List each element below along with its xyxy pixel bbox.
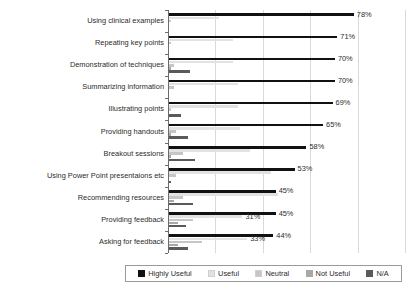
axis-tick [165, 98, 168, 99]
category-label: Recommending resources [78, 194, 164, 201]
bar [169, 193, 278, 196]
legend-swatch-icon [255, 270, 262, 277]
bar [169, 159, 195, 162]
category-label: Providing feedback [101, 216, 164, 223]
bar [169, 114, 181, 117]
legend-swatch-icon [366, 270, 373, 277]
bar [169, 17, 219, 20]
axis-tick [165, 32, 168, 33]
bar-group [168, 54, 405, 76]
data-label: 33% [250, 235, 265, 242]
legend-item[interactable]: Useful [208, 270, 239, 277]
axis-tick [165, 76, 168, 77]
chart-legend: Highly UsefulUsefulNeutralNot UsefulN/A [125, 265, 402, 282]
axis-tick [165, 187, 168, 188]
data-label: 44% [276, 232, 291, 239]
data-label: 70% [338, 77, 353, 84]
legend-swatch-icon [138, 270, 145, 277]
bar [169, 61, 233, 64]
bar-group [168, 32, 405, 54]
data-label: 45% [279, 210, 294, 217]
legend-item[interactable]: Neutral [255, 270, 289, 277]
bar [169, 42, 171, 45]
data-label: 53% [298, 165, 313, 172]
legend-label: Neutral [265, 270, 289, 277]
category-label: Summarizing information [82, 83, 164, 90]
bar [169, 105, 238, 108]
axis-tick [165, 120, 168, 121]
bar-group [168, 143, 405, 165]
data-label: 69% [336, 99, 351, 106]
bar-group [168, 120, 405, 142]
legend-item[interactable]: N/A [366, 270, 388, 277]
bar [169, 83, 238, 86]
data-label: 71% [340, 33, 355, 40]
legend-label: Useful [218, 270, 239, 277]
legend-label: Not Useful [316, 270, 351, 277]
gridline [405, 10, 406, 253]
bar [169, 174, 176, 177]
axis-tick [165, 165, 168, 166]
bar [169, 247, 188, 250]
data-label: 45% [279, 187, 294, 194]
legend-item[interactable]: Highly Useful [138, 270, 192, 277]
bar-group [168, 165, 405, 187]
bar [169, 203, 193, 206]
data-label: 65% [326, 121, 341, 128]
bar [169, 171, 271, 174]
category-label: Illustrating points [109, 105, 164, 112]
legend-item[interactable]: Not Useful [306, 270, 351, 277]
category-label: Breakout sessions [104, 150, 164, 157]
legend-swatch-icon [306, 270, 313, 277]
bar [169, 181, 171, 184]
data-label: 31% [245, 213, 260, 220]
horizontal-bar-chart: Using clinical examplesRepeating key poi… [0, 0, 417, 292]
bar [169, 108, 171, 111]
bar [169, 136, 188, 139]
bar [169, 20, 171, 23]
data-label: 70% [338, 55, 353, 62]
category-label: Providing handouts [101, 128, 164, 135]
axis-tick [165, 10, 168, 11]
axis-tick [165, 209, 168, 210]
axis-tick [165, 54, 168, 55]
bar-group [168, 98, 405, 120]
category-label: Using clinical examples [87, 17, 164, 24]
axis-tick [165, 253, 168, 254]
category-axis-line [168, 10, 169, 253]
bar [169, 127, 240, 130]
legend-label: Highly Useful [148, 270, 192, 277]
legend-swatch-icon [208, 270, 215, 277]
bar [169, 39, 233, 42]
axis-tick [165, 231, 168, 232]
category-label: Demonstration of techniques [70, 61, 164, 68]
category-label: Asking for feedback [99, 238, 164, 245]
legend-label: N/A [376, 270, 388, 277]
bar-group [168, 76, 405, 98]
axis-tick [165, 143, 168, 144]
data-label: 58% [309, 143, 324, 150]
bar [169, 86, 174, 89]
bar [169, 70, 190, 73]
bar [169, 225, 186, 228]
category-label: Repeating key points [95, 39, 164, 46]
category-label: Using Power Point presentaions etc [47, 172, 164, 179]
data-label: 78% [357, 11, 372, 18]
